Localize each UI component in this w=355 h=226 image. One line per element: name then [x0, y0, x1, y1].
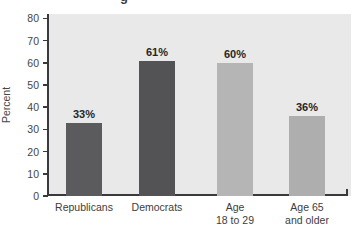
x-axis-category-label: Age 65and older	[262, 201, 352, 226]
bar-value-label: 36%	[277, 102, 337, 113]
x-axis-end-tick	[346, 189, 348, 195]
y-axis-tick-label: 70	[11, 36, 39, 46]
y-axis-tick	[43, 62, 48, 64]
y-axis-tick	[43, 18, 48, 20]
y-axis-tick	[43, 173, 48, 175]
y-axis-tick-label: 0	[11, 191, 39, 201]
bar-value-label: 33%	[54, 109, 114, 120]
y-axis-tick-label: 80	[11, 13, 39, 23]
y-axis-tick	[43, 195, 48, 197]
y-axis-tick	[43, 151, 48, 153]
clipped-title-text: g	[120, 0, 128, 3]
y-axis-tick	[43, 129, 48, 131]
y-axis-tick-label: 60	[11, 58, 39, 68]
y-axis-tick-label: 30	[11, 124, 39, 134]
bar-chart-figure: g Percent 0102030405060708033%Republican…	[0, 0, 355, 226]
y-axis-tick	[43, 106, 48, 108]
bar-value-label: 61%	[127, 47, 187, 58]
bar-democrats	[139, 61, 175, 196]
y-axis-tick-label: 50	[11, 80, 39, 90]
bar-age-18-to-29	[217, 63, 253, 196]
bar-republicans	[66, 123, 102, 196]
bar-age-65-and-older	[289, 116, 325, 196]
bar-value-label: 60%	[205, 49, 265, 60]
y-axis-tick	[43, 84, 48, 86]
y-axis-tick-label: 40	[11, 102, 39, 112]
y-axis-tick-label: 10	[11, 169, 39, 179]
y-axis-tick-label: 20	[11, 147, 39, 157]
y-axis-tick	[43, 40, 48, 42]
x-axis-category-label: Democrats	[112, 201, 202, 214]
